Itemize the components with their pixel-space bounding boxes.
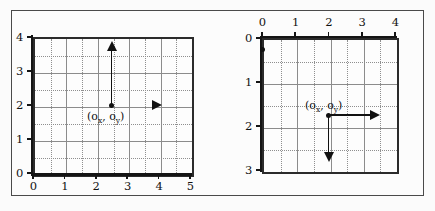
left-origin-label-close: ) [120, 110, 124, 123]
y-axis-tick-label: 2 [16, 100, 23, 112]
right-image-origin-dot [260, 47, 265, 52]
y-axis-tick [256, 37, 261, 39]
x-axis-tick [361, 32, 363, 37]
gridline-major-vertical [364, 40, 365, 172]
gridline-minor-horizontal [35, 158, 192, 159]
left-origin-label: (ox, oy) [87, 111, 124, 122]
right-origin-label: (ox, oy) [305, 100, 342, 111]
x-axis-tick [394, 32, 396, 37]
right-y-arrow-head [324, 152, 334, 162]
x-axis-tick-label: 3 [359, 17, 366, 29]
gridline-major-horizontal [35, 141, 192, 142]
left-panel: 01234501234 (ox, oy) [33, 37, 190, 173]
x-axis-tick [328, 32, 330, 37]
x-axis-tick-label: 1 [61, 181, 68, 193]
y-axis-tick-label: 3 [16, 66, 23, 78]
right-panel: 012340123 (ox, oy) [262, 38, 395, 170]
x-axis-tick-label: 1 [292, 17, 299, 29]
y-axis-tick [256, 125, 261, 127]
gridline-major-horizontal [35, 73, 192, 74]
right-origin-label-mid: , o [320, 99, 334, 112]
y-axis-tick-label: 0 [245, 33, 252, 45]
right-origin-label-open: (o [305, 99, 316, 112]
gridline-major-horizontal [35, 107, 192, 108]
y-axis-tick [27, 172, 32, 174]
y-axis-tick [27, 104, 32, 106]
right-y-axis-line [260, 36, 263, 172]
y-axis-tick-label: 1 [245, 77, 252, 89]
y-axis-tick-label: 0 [16, 168, 23, 180]
y-axis-tick [256, 81, 261, 83]
x-axis-tick [261, 32, 263, 37]
figure-root: 01234501234 (ox, oy) 012340123 [0, 0, 435, 211]
left-x-axis-line [31, 173, 192, 176]
x-axis-tick-label: 2 [93, 181, 100, 193]
right-x-arrow-shaft [329, 114, 372, 116]
y-axis-tick-label: 4 [16, 32, 23, 44]
left-y-arrow-head [107, 41, 117, 51]
right-x-arrow-head [370, 110, 380, 120]
y-axis-tick [256, 169, 261, 171]
gridline-major-horizontal [264, 128, 397, 129]
left-x-arrow-head [152, 100, 162, 110]
x-axis-tick-label: 0 [30, 181, 37, 193]
y-axis-tick-label: 2 [245, 121, 252, 133]
y-axis-tick-label: 3 [245, 165, 252, 177]
gridline-major-horizontal [264, 84, 397, 85]
left-y-arrow-shaft [111, 50, 113, 105]
x-axis-tick-label: 4 [392, 17, 399, 29]
gridline-minor-horizontal [35, 56, 192, 57]
x-axis-tick-label: 4 [155, 181, 162, 193]
x-axis-tick-label: 5 [187, 181, 194, 193]
right-y-arrow-shaft [328, 115, 330, 154]
left-origin-label-mid: , o [102, 110, 116, 123]
x-axis-tick-label: 2 [325, 17, 332, 29]
y-axis-tick [27, 138, 32, 140]
left-origin-label-open: (o [87, 110, 98, 123]
x-axis-tick-label: 3 [124, 181, 131, 193]
right-origin-label-close: ) [338, 99, 342, 112]
gridline-major-vertical [297, 40, 298, 172]
x-axis-tick-label: 0 [259, 17, 266, 29]
gridline-minor-horizontal [35, 90, 192, 91]
x-axis-tick [294, 32, 296, 37]
y-axis-tick [27, 70, 32, 72]
y-axis-tick-label: 1 [16, 134, 23, 146]
gridline-minor-horizontal [35, 124, 192, 125]
y-axis-tick [27, 36, 32, 38]
